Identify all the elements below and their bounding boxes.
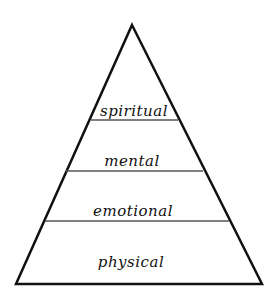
level-label-spiritual: spiritual (100, 102, 168, 120)
level-label-emotional: emotional (93, 202, 173, 220)
level-label-physical: physical (98, 253, 164, 271)
pyramid-diagram: spiritual mental emotional physical (0, 0, 277, 301)
level-label-mental: mental (104, 152, 160, 170)
